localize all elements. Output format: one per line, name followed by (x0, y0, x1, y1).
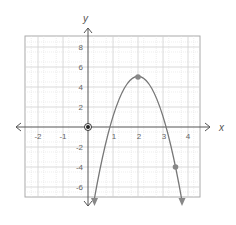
point-3.5-neg4 (173, 164, 179, 170)
y-axis-label: y (82, 13, 89, 24)
x-tick: -2 (34, 132, 42, 141)
y-tick: -6 (76, 183, 84, 192)
y-tick: -2 (76, 143, 84, 152)
x-tick: 1 (112, 132, 117, 141)
x-tick: 2 (137, 132, 142, 141)
y-tick: 8 (79, 43, 84, 52)
curve-left-arrow-icon (91, 198, 98, 206)
y-tick: 4 (79, 83, 84, 92)
origin-marker-dot (86, 125, 90, 129)
x-tick: 3 (162, 132, 167, 141)
vertex-point (135, 74, 141, 80)
graph: x y -2 -1 1 2 3 4 8 6 4 2 -2 -4 -6 (0, 0, 236, 225)
curve-right-arrow-icon (179, 198, 186, 206)
x-tick: -1 (59, 132, 67, 141)
y-tick: 6 (79, 63, 84, 72)
y-tick: 2 (79, 103, 84, 112)
x-tick: 4 (186, 132, 191, 141)
x-axis-label: x (218, 122, 225, 133)
y-tick: -4 (76, 163, 84, 172)
